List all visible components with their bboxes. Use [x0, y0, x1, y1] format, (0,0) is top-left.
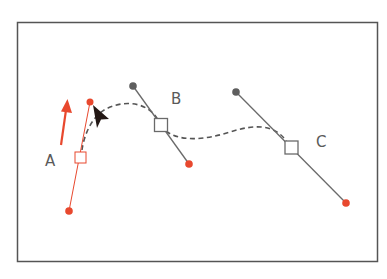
label-a: A	[45, 152, 56, 170]
label-b: B	[171, 90, 181, 108]
anchor-a-handle-in[interactable]	[65, 207, 73, 215]
label-c: C	[316, 133, 326, 151]
anchor-b-handle-out[interactable]	[185, 160, 193, 168]
anchor-point-a[interactable]	[75, 152, 86, 163]
anchor-c-handle-in[interactable]	[232, 88, 240, 96]
anchor-a-handle-out[interactable]	[87, 99, 94, 106]
anchor-c-handle-out[interactable]	[342, 199, 350, 207]
bezier-diagram: A B C	[0, 0, 387, 279]
anchor-point-c[interactable]	[285, 141, 298, 154]
anchor-b-handle-in[interactable]	[129, 82, 137, 90]
anchor-point-b[interactable]	[155, 119, 168, 132]
